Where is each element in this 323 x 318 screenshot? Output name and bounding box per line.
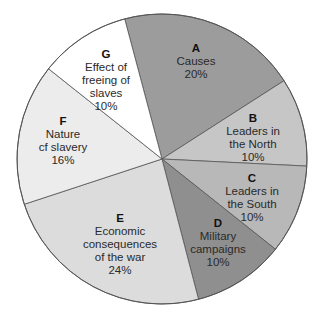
pie-chart: ACauses20%BLeaders inthe North10%CLeader… [0,0,323,318]
slice-text-line: Causes [177,55,216,68]
slice-text-line: 10% [226,151,280,164]
slice-text-line: the South [225,198,279,211]
slice-label-g: GEffect offreeing ofslaves10% [82,48,130,113]
slice-letter: F [39,115,88,128]
slice-letter: D [190,217,246,230]
slice-text-line: 24% [83,264,157,277]
slice-label-d: DMilitarycampaigns10% [190,217,246,269]
slice-text-line: 10% [190,256,246,269]
slice-label-b: BLeaders inthe North10% [226,112,280,164]
slice-label-f: FNaturecf slavery16% [39,115,88,167]
slice-label-a: ACauses20% [177,42,216,81]
slice-letter: B [226,112,280,125]
slice-letter: E [83,212,157,225]
slice-text-line: 16% [39,154,88,167]
slice-text-line: of the war [83,251,157,264]
slice-text-line: Leaders in [225,185,279,198]
slice-letter: C [225,172,279,185]
slice-text-line: cf slavery [39,141,88,154]
slice-text-line: the North [226,138,280,151]
slice-text-line: 10% [82,100,130,113]
slice-text-line: Economic [83,225,157,238]
slice-letter: G [82,48,130,61]
slice-label-e: EEconomicconsequencesof the war24% [83,212,157,277]
slice-text-line: Nature [39,128,88,141]
slice-text-line: Leaders in [226,125,280,138]
slice-text-line: consequences [83,238,157,251]
slice-text-line: Effect of [82,61,130,74]
slice-letter: A [177,42,216,55]
slice-text-line: campaigns [190,243,246,256]
slice-text-line: 20% [177,68,216,81]
slice-text-line: freeing of [82,74,130,87]
slice-text-line: slaves [82,87,130,100]
slice-text-line: Military [190,230,246,243]
